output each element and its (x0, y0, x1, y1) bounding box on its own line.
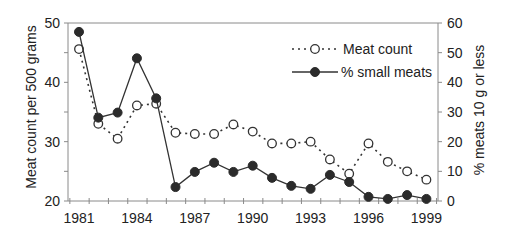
right-tick-label: 40 (447, 74, 463, 90)
open-circle-marker (191, 130, 200, 139)
left-tick-label: 40 (44, 74, 60, 90)
filled-circle-marker (152, 94, 161, 103)
right-tick-label: 20 (447, 134, 463, 150)
right-tick-label: 0 (447, 193, 455, 209)
x-tick-label: 1990 (237, 210, 268, 226)
open-circle-marker (248, 127, 257, 136)
filled-circle-marker (248, 161, 257, 170)
legend-label: Meat count (343, 41, 412, 57)
x-tick-label: 1984 (121, 210, 152, 226)
open-circle-marker (287, 139, 296, 148)
open-circle-marker-icon (311, 45, 320, 54)
filled-circle-marker (268, 173, 277, 182)
open-circle-marker (210, 130, 219, 139)
x-tick-label: 1981 (63, 210, 94, 226)
open-circle-marker (326, 155, 335, 164)
open-circle-marker (422, 175, 431, 184)
right-tick-label: 60 (447, 15, 463, 31)
filled-circle-marker (94, 113, 103, 122)
legend: Meat count % small meats (292, 41, 432, 80)
left-tick-label: 50 (44, 15, 60, 31)
filled-circle-marker (364, 192, 373, 201)
open-circle-marker (403, 167, 412, 176)
filled-circle-marker-icon (311, 68, 320, 77)
dual-axis-line-chart: 2030405001020304050601981198419871990199… (0, 0, 513, 239)
filled-circle-marker (190, 167, 199, 176)
open-circle-marker (229, 120, 238, 129)
left-tick-label: 30 (44, 134, 60, 150)
right-tick-label: 50 (447, 45, 463, 61)
left-tick-label: 20 (44, 193, 60, 209)
filled-circle-marker (287, 181, 296, 190)
chart: 2030405001020304050601981198419871990199… (0, 0, 513, 239)
x-tick-label: 1987 (179, 210, 210, 226)
right-tick-label: 30 (447, 104, 463, 120)
filled-circle-marker (325, 170, 334, 179)
open-circle-marker (268, 139, 277, 148)
open-circle-marker (345, 169, 354, 178)
right-axis-title: % meats 10 g or less (471, 45, 487, 176)
x-tick-label: 1996 (353, 210, 384, 226)
filled-circle-marker (229, 167, 238, 176)
legend-item-small-meats: % small meats (292, 64, 432, 80)
filled-circle-marker (422, 194, 431, 203)
filled-circle-marker (345, 178, 354, 187)
x-tick-label: 1993 (295, 210, 326, 226)
filled-circle-marker (75, 27, 84, 36)
filled-circle-marker (383, 194, 392, 203)
open-circle-marker (133, 101, 142, 110)
filled-circle-marker (171, 183, 180, 192)
filled-circle-marker (403, 191, 412, 200)
left-axis-title: Meat count per 500 grams (23, 25, 39, 188)
filled-circle-marker (210, 158, 219, 167)
open-circle-marker (171, 128, 180, 137)
legend-label: % small meats (341, 64, 432, 80)
open-circle-marker (384, 158, 393, 167)
right-tick-label: 10 (447, 163, 463, 179)
filled-circle-marker (113, 108, 122, 117)
filled-circle-marker (132, 54, 141, 63)
open-circle-marker (113, 134, 122, 143)
filled-circle-marker (306, 184, 315, 193)
legend-item-meat-count: Meat count (292, 41, 412, 57)
open-circle-marker (306, 137, 315, 146)
open-circle-marker (364, 139, 373, 148)
x-tick-label: 1999 (411, 210, 442, 226)
